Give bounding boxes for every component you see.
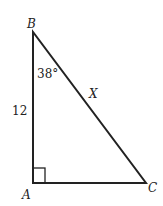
angle-b-label: 38° xyxy=(37,67,58,81)
triangle-abc xyxy=(33,32,146,183)
side-bc-label: X xyxy=(88,87,98,101)
side-ab-label: 12 xyxy=(12,104,27,118)
vertex-label-c: C xyxy=(148,181,157,195)
triangle-diagram: B A C 38° 12 X xyxy=(0,0,163,206)
vertex-label-a: A xyxy=(21,188,31,202)
vertex-label-b: B xyxy=(26,17,36,31)
right-angle-marker xyxy=(33,168,45,183)
